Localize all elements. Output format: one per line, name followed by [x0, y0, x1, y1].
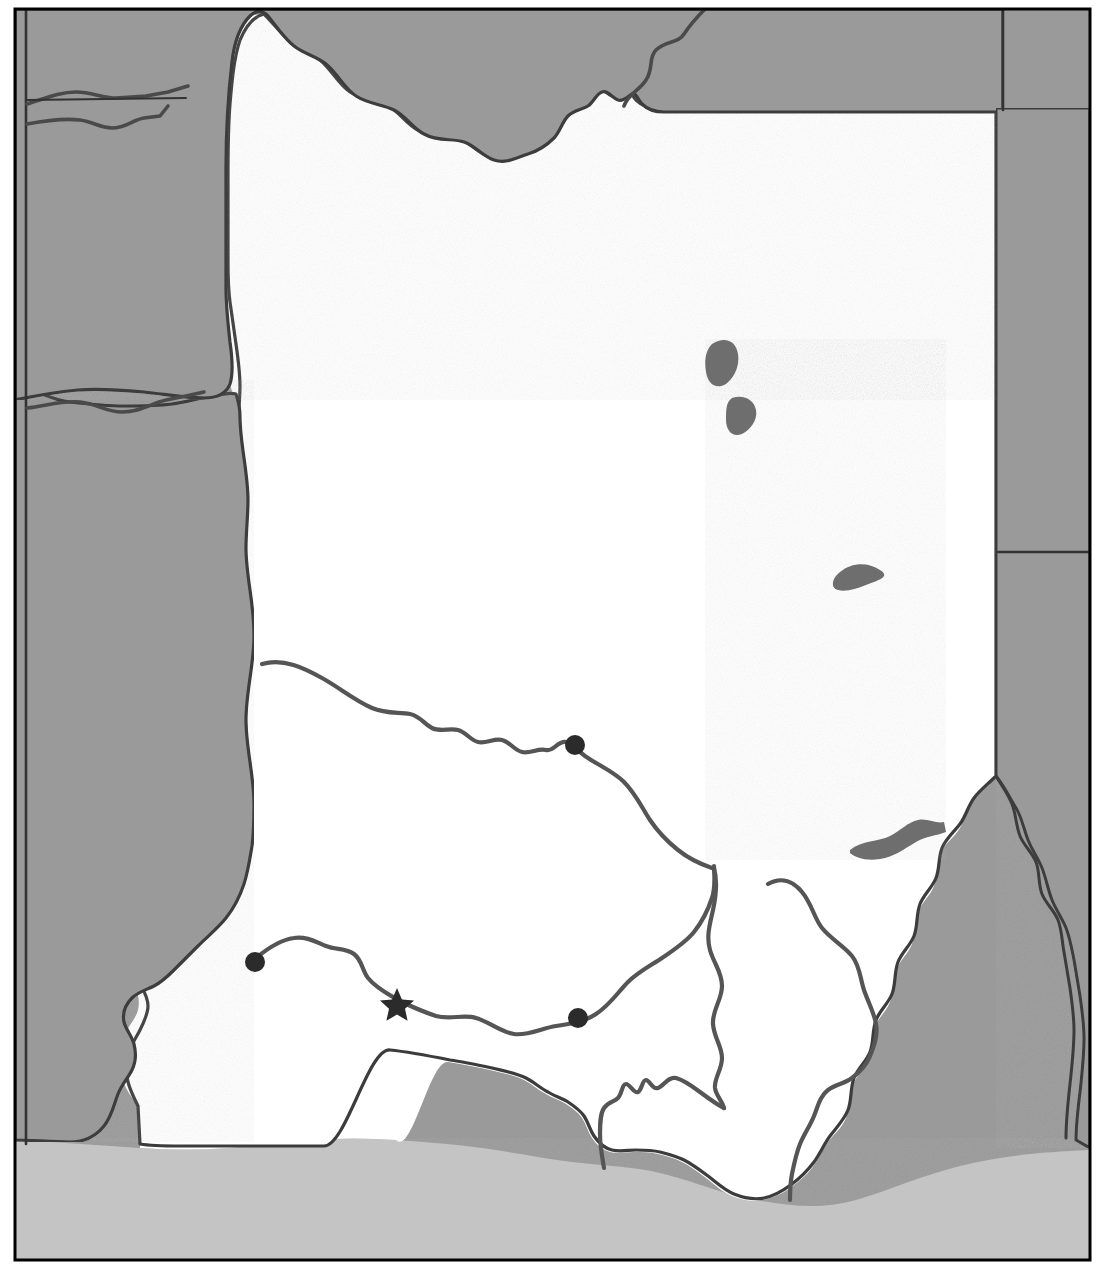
- settlement-marker-west[interactable]: [245, 952, 265, 972]
- map-canvas: [0, 0, 1099, 1269]
- focus-region-outline: [127, 14, 997, 1199]
- map-svg: [0, 0, 1099, 1269]
- settlement-marker-southeast[interactable]: [568, 1008, 588, 1028]
- settlement-marker-north[interactable]: [565, 735, 585, 755]
